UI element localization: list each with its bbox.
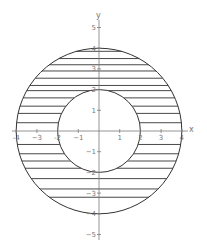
- y-tick-label: −4: [86, 210, 97, 218]
- x-tick-label: -2: [54, 134, 61, 142]
- x-tick-label: 3: [159, 134, 163, 142]
- y-axis-label: y: [96, 11, 101, 20]
- y-tick-label: 4: [92, 45, 97, 53]
- y-tick-label: 1: [92, 107, 96, 115]
- x-tick-label: -4: [13, 134, 21, 142]
- y-tick-label: 2: [92, 86, 96, 94]
- x-tick-label: 4: [180, 134, 185, 142]
- y-tick-label: −1: [86, 148, 96, 156]
- y-tick-label: −3: [86, 190, 96, 198]
- y-tick-label: 5: [92, 24, 96, 32]
- annulus-plot: -4−3-2−11234 54321−1−2−3−4−5 x y: [0, 0, 207, 252]
- x-tick-label: 2: [138, 134, 142, 142]
- x-tick-label: −3: [32, 134, 42, 142]
- y-tick-label: 3: [92, 65, 96, 73]
- x-tick-label: −1: [73, 134, 83, 142]
- x-axis-label: x: [189, 125, 194, 134]
- x-tick-label: 1: [117, 134, 121, 142]
- y-tick-label: −2: [86, 169, 96, 177]
- y-tick-label: −5: [86, 231, 96, 239]
